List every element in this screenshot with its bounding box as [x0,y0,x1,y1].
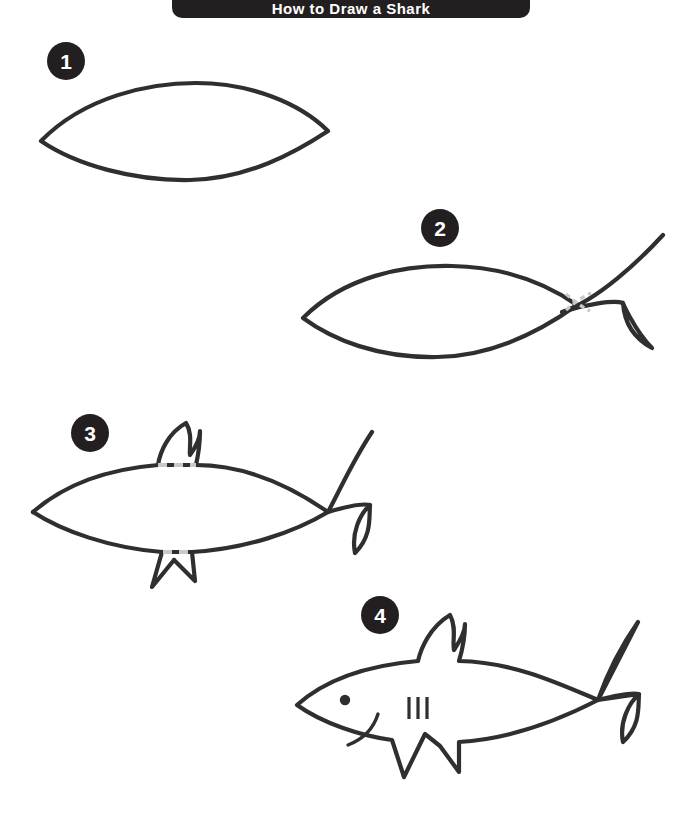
tail-fin-step2 [562,235,663,348]
body-lens-step1 [41,83,328,180]
pelvic-fin-step3 [174,552,195,581]
step-3-artwork [0,0,678,818]
tail-overlap-guide-step2 [566,294,590,311]
dorsal-fin-step3 [158,423,200,465]
step-badge-1: 1 [47,42,85,80]
step-badge-3: 3 [71,414,109,452]
step-badge-2: 2 [421,209,459,247]
step-badge-4: 4 [361,596,399,634]
tutorial-page: How to Draw a Shark [0,0,678,818]
mouth-curve [348,714,378,745]
tail-fin-step3 [328,432,372,553]
shark-outline-step4 [297,615,639,777]
page-title-bar: How to Draw a Shark [172,0,530,18]
step-2-artwork [0,0,678,818]
page-title: How to Draw a Shark [272,1,431,18]
tail-overlap-guide2-step2 [566,293,591,310]
body-lens-step2 [303,266,577,357]
step-4-artwork [0,0,678,818]
body-top-step3 [33,465,328,512]
pectoral-fin-step3 [152,552,174,587]
gill-slits [409,697,427,719]
eye-dot [340,695,350,705]
step-1-artwork [0,0,678,818]
body-bottom-step3 [33,512,328,552]
